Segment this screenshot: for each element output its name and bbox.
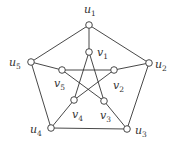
node-label-u3: u3 (135, 124, 147, 139)
node-label-u1: u1 (84, 3, 96, 18)
edge-v3-v5 (62, 70, 104, 101)
node-u1 (86, 22, 93, 29)
node-u3 (124, 126, 131, 133)
node-v4 (71, 97, 78, 104)
edge-u5-v5 (31, 62, 62, 70)
edge-u2-v2 (114, 63, 149, 70)
node-v5 (59, 67, 66, 74)
node-label-v4: v4 (72, 108, 83, 123)
nodes-layer (28, 22, 153, 133)
node-u4 (48, 125, 55, 132)
node-label-u2: u2 (155, 58, 167, 73)
edge-v2-v4 (74, 70, 114, 100)
edge-v1-v3 (89, 52, 104, 101)
node-u5 (28, 59, 35, 66)
edge-u3-u4 (51, 128, 127, 129)
node-label-v1: v1 (97, 46, 108, 61)
node-label-v5: v5 (54, 77, 65, 92)
node-label-u5: u5 (9, 56, 21, 71)
edge-u5-u1 (31, 25, 89, 62)
node-v3 (101, 98, 108, 105)
node-label-u4: u4 (30, 123, 42, 138)
node-label-v2: v2 (113, 79, 124, 94)
node-v1 (86, 49, 93, 56)
edges-layer (31, 25, 149, 129)
node-v2 (111, 67, 118, 74)
node-label-v3: v3 (100, 109, 111, 124)
node-u2 (146, 60, 153, 67)
edge-u4-u5 (31, 62, 51, 128)
edge-u4-v4 (51, 100, 74, 128)
edge-v4-v1 (74, 52, 89, 100)
edge-u2-u3 (127, 63, 149, 129)
petersen-graph-diagram: u1u2u3u4u5v1v2v3v4v5 (0, 0, 179, 145)
